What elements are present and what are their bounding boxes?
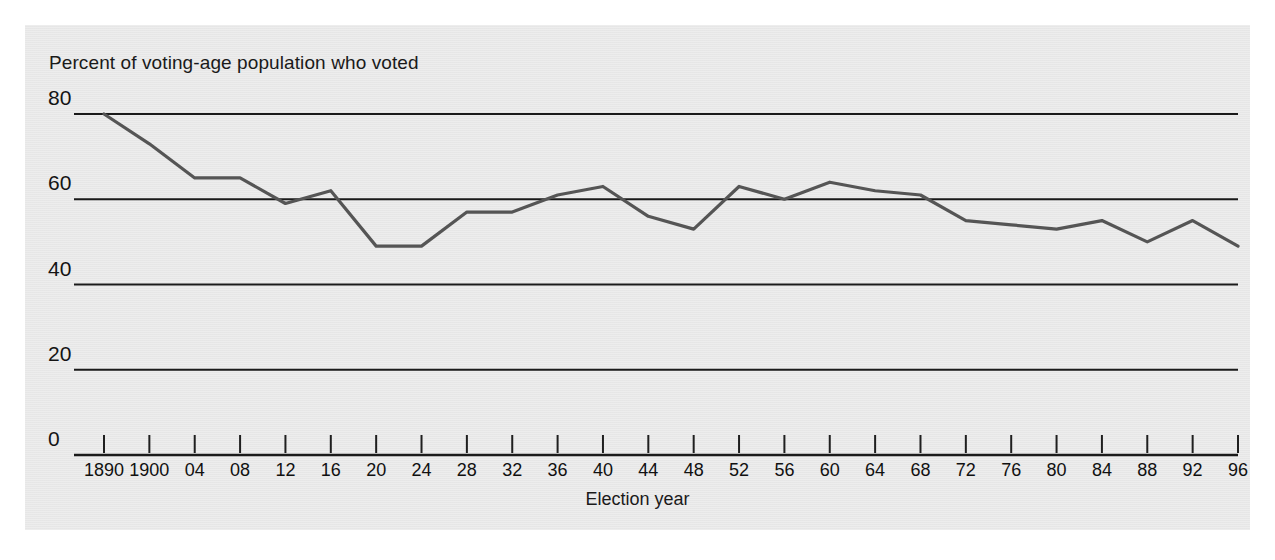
x-tick-label-92: 92 xyxy=(1183,460,1203,481)
x-tick-label-56: 56 xyxy=(774,460,794,481)
x-tick-label-24: 24 xyxy=(412,460,432,481)
x-tick-label-12: 12 xyxy=(275,460,295,481)
x-tick-label-32: 32 xyxy=(502,460,522,481)
y-tick-label-0: 0 xyxy=(48,427,60,450)
x-tick-label-84: 84 xyxy=(1092,460,1112,481)
x-tick-label-80: 80 xyxy=(1047,460,1067,481)
x-tick-label-76: 76 xyxy=(1001,460,1021,481)
x-tick-label-1900: 1900 xyxy=(129,460,169,481)
x-tick-label-68: 68 xyxy=(910,460,930,481)
x-tick-label-64: 64 xyxy=(865,460,885,481)
y-tick-labels-group: 020406080 xyxy=(48,86,71,450)
x-ticks-group xyxy=(104,435,1238,453)
y-tick-label-60: 60 xyxy=(48,171,71,194)
y-tick-label-80: 80 xyxy=(48,86,71,109)
y-tick-label-20: 20 xyxy=(48,342,71,365)
gridlines-group xyxy=(74,114,1238,455)
x-axis-title: Election year xyxy=(0,489,1275,510)
x-tick-label-04: 04 xyxy=(185,460,205,481)
x-tick-label-96: 96 xyxy=(1228,460,1248,481)
x-tick-label-16: 16 xyxy=(321,460,341,481)
x-tick-label-60: 60 xyxy=(820,460,840,481)
y-tick-label-40: 40 xyxy=(48,257,71,280)
x-tick-label-40: 40 xyxy=(593,460,613,481)
chart-figure: Percent of voting-age population who vot… xyxy=(0,0,1275,560)
data-line-series-turnout xyxy=(104,114,1238,246)
x-tick-label-08: 08 xyxy=(230,460,250,481)
x-tick-label-88: 88 xyxy=(1137,460,1157,481)
x-tick-label-48: 48 xyxy=(684,460,704,481)
x-tick-label-36: 36 xyxy=(548,460,568,481)
x-tick-label-1890: 1890 xyxy=(84,460,124,481)
x-tick-label-28: 28 xyxy=(457,460,477,481)
x-tick-label-20: 20 xyxy=(366,460,386,481)
x-tick-label-52: 52 xyxy=(729,460,749,481)
x-tick-label-44: 44 xyxy=(638,460,658,481)
x-tick-label-72: 72 xyxy=(956,460,976,481)
